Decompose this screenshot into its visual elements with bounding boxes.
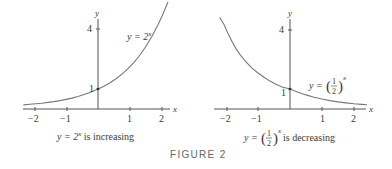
right-curve-label: y = ( 1 2 ) x	[308, 74, 347, 96]
right-caption-exp: x	[277, 127, 282, 135]
right-caption-lparen: (	[261, 130, 266, 147]
right-curve-label-den: 2	[332, 87, 336, 96]
right-curve-label-num: 1	[332, 77, 336, 86]
right-curve-label-base: y =	[308, 80, 323, 91]
figure-canvas: y x 4 1 −2 −1 1 2 y = 2x y = 2x is incre…	[0, 0, 392, 169]
right-xtick-label-neg1: −1	[251, 113, 262, 124]
left-xtick-label-neg2: −2	[28, 113, 39, 124]
right-caption: y = ( 1 2 ) x is decreasing	[243, 127, 335, 148]
left-ytick-label-1: 1	[89, 83, 94, 94]
left-curve-label-base: y = 2	[126, 31, 148, 42]
right-caption-suffix: is decreasing	[283, 132, 335, 143]
right-point-0-1	[289, 88, 291, 90]
right-curve-half-pow-x	[220, 17, 367, 105]
left-xtick-label-2: 2	[159, 113, 164, 124]
left-y-label: y	[94, 8, 99, 18]
left-point-0-1	[97, 88, 99, 90]
left-graph: y x 4 1 −2 −1 1 2 y = 2x y = 2x is incre…	[23, 2, 177, 142]
right-graph: y x 4 1 −2 −1 1 2 y = ( 1 2 ) x y = ( 1 …	[214, 8, 373, 148]
right-caption-prefix: y =	[243, 132, 258, 143]
left-xtick-label-neg1: −1	[60, 113, 71, 124]
right-x-label: x	[368, 104, 373, 114]
left-xtick-label-1: 1	[127, 113, 132, 124]
left-caption-prefix: y = 2	[56, 131, 78, 142]
right-xtick-label-2: 2	[351, 113, 356, 124]
right-ytick-label-1: 1	[281, 87, 286, 98]
left-caption-suffix: is increasing	[81, 131, 134, 142]
left-curve-label: y = 2x	[126, 30, 152, 42]
right-curve-label-lparen: (	[326, 78, 331, 95]
left-x-label: x	[172, 104, 177, 114]
right-curve-label-exp: x	[342, 74, 347, 82]
left-caption: y = 2x is increasing	[56, 130, 134, 142]
figure-label: FIGURE 2	[170, 149, 227, 160]
right-xtick-label-1: 1	[320, 113, 325, 124]
right-xtick-label-neg2: −2	[220, 113, 231, 124]
right-caption-den: 2	[267, 139, 271, 148]
right-y-label: y	[287, 8, 292, 18]
right-ytick-label-4: 4	[279, 24, 284, 35]
left-ytick-label-4: 4	[87, 23, 92, 34]
right-caption-num: 1	[267, 129, 271, 138]
